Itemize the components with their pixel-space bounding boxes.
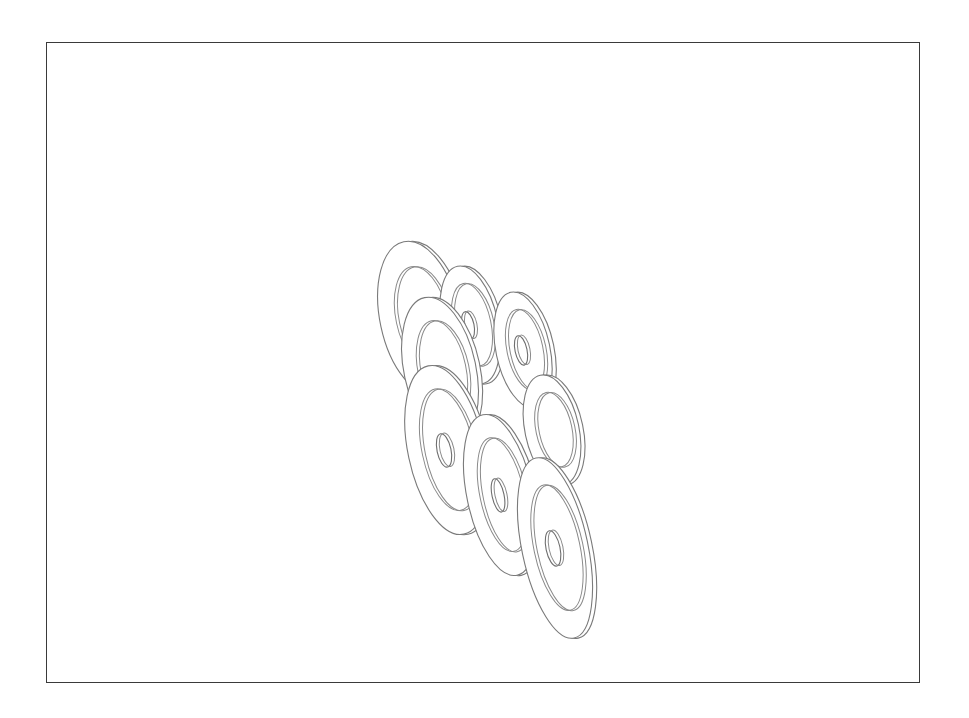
washers-sketch <box>0 0 969 718</box>
